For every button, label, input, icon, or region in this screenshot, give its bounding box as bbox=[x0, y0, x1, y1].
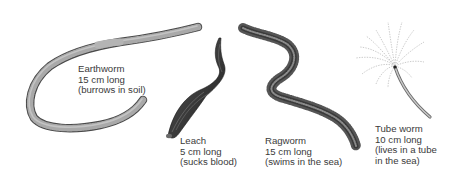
leach-name: Leach bbox=[180, 136, 237, 147]
tube-worm-name: Tube worm bbox=[375, 124, 437, 135]
tube-worm-drawing bbox=[356, 22, 430, 117]
worm-illustration-figure: Earthworm 15 cm long (burrows in soil) L… bbox=[0, 0, 460, 181]
ragworm-name: Ragworm bbox=[265, 136, 342, 147]
tube-worm-note-line2: in the sea) bbox=[375, 156, 437, 167]
earthworm-note: (burrows in soil) bbox=[78, 85, 146, 96]
leach-label: Leach 5 cm long (sucks blood) bbox=[180, 136, 237, 168]
ragworm-note: (swims in the sea) bbox=[265, 157, 342, 168]
leach-drawing bbox=[166, 38, 225, 138]
earthworm-name: Earthworm bbox=[78, 64, 146, 75]
earthworm-label: Earthworm 15 cm long (burrows in soil) bbox=[78, 64, 146, 96]
ragworm-drawing bbox=[243, 28, 356, 146]
ragworm-label: Ragworm 15 cm long (swims in the sea) bbox=[265, 136, 342, 168]
tube-worm-label: Tube worm 10 cm long (lives in a tube in… bbox=[375, 124, 437, 166]
leach-note: (sucks blood) bbox=[180, 157, 237, 168]
